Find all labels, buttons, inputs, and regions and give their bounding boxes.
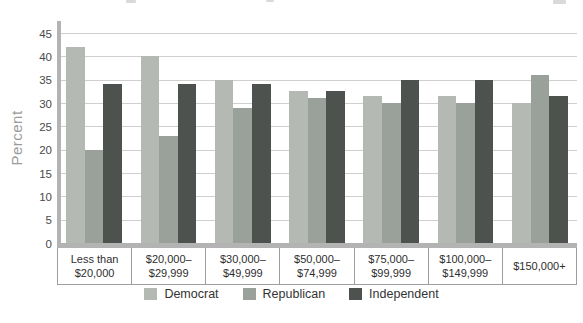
bar-independent bbox=[178, 84, 197, 243]
y-tick-label: 10 bbox=[22, 191, 52, 203]
legend-label: Republican bbox=[263, 287, 326, 301]
category-label: $30,000– $49,999 bbox=[206, 248, 280, 284]
y-tick-label: 0 bbox=[22, 238, 52, 250]
bar-republican bbox=[531, 75, 550, 243]
legend: DemocratRepublicanIndependent bbox=[0, 287, 583, 301]
bar-democrat bbox=[512, 103, 531, 243]
bar-independent bbox=[475, 80, 494, 243]
category-label: $50,000– $74,999 bbox=[280, 248, 354, 284]
y-tick-label: 15 bbox=[22, 168, 52, 180]
y-axis-title: Percent bbox=[8, 110, 25, 165]
category-label: $75,000– $99,999 bbox=[355, 248, 429, 284]
bar-republican bbox=[456, 103, 475, 243]
bar-democrat bbox=[363, 96, 382, 243]
gridline-40 bbox=[61, 56, 577, 57]
cropped-title-fragment bbox=[126, 0, 136, 3]
cropped-title-fragment bbox=[266, 0, 274, 2]
bar-democrat bbox=[438, 96, 457, 243]
bar-democrat bbox=[289, 91, 308, 243]
category-label: Less than $20,000 bbox=[58, 248, 132, 284]
bar-republican bbox=[233, 108, 252, 243]
gridline-45 bbox=[61, 33, 577, 34]
bar-independent bbox=[401, 80, 420, 243]
y-tick-label: 45 bbox=[22, 28, 52, 40]
republican-swatch-icon bbox=[243, 288, 256, 300]
bar-independent bbox=[252, 84, 271, 243]
y-tick-label: 25 bbox=[22, 121, 52, 133]
bar-republican bbox=[159, 136, 178, 243]
bar-republican bbox=[85, 150, 104, 243]
gridline-35 bbox=[61, 80, 577, 81]
bar-republican bbox=[382, 103, 401, 243]
legend-item-independent: Independent bbox=[349, 287, 439, 301]
bar-independent bbox=[326, 91, 345, 243]
category-label: $150,000+ bbox=[503, 248, 576, 284]
y-tick-label: 5 bbox=[22, 214, 52, 226]
income-party-bar-chart: Percent 051015202530354045 Less than $20… bbox=[0, 0, 583, 323]
bar-independent bbox=[103, 84, 122, 243]
independent-swatch-icon bbox=[349, 288, 362, 300]
y-tick-label: 35 bbox=[22, 74, 52, 86]
category-label: $20,000– $29,999 bbox=[132, 248, 206, 284]
bar-republican bbox=[308, 98, 327, 243]
y-axis-line bbox=[57, 21, 61, 243]
bar-independent bbox=[549, 96, 568, 243]
legend-label: Democrat bbox=[164, 287, 218, 301]
bar-democrat bbox=[215, 80, 234, 243]
legend-item-republican: Republican bbox=[243, 287, 326, 301]
y-tick-label: 20 bbox=[22, 144, 52, 156]
bar-democrat bbox=[141, 56, 160, 243]
legend-item-democrat: Democrat bbox=[144, 287, 218, 301]
y-tick-label: 40 bbox=[22, 51, 52, 63]
category-label: $100,000– $149,999 bbox=[429, 248, 503, 284]
legend-label: Independent bbox=[369, 287, 439, 301]
cropped-title-fragment bbox=[553, 0, 566, 4]
y-tick-label: 30 bbox=[22, 98, 52, 110]
democrat-swatch-icon bbox=[144, 288, 157, 300]
bar-democrat bbox=[66, 47, 85, 243]
category-axis: Less than $20,000$20,000– $29,999$30,000… bbox=[57, 248, 577, 285]
